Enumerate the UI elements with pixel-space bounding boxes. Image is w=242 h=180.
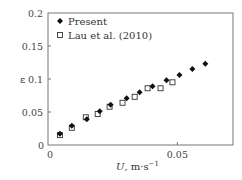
square-marker xyxy=(145,86,150,91)
square-marker xyxy=(170,80,175,85)
diamond-marker xyxy=(189,66,195,72)
square-marker xyxy=(58,33,63,38)
x-axis-label: U, m·s−1 xyxy=(116,160,159,172)
y-tick-label: 0.2 xyxy=(28,8,43,19)
legend-label: Present xyxy=(68,16,107,27)
data-points xyxy=(57,61,208,138)
legend: PresentLau et al. (2010) xyxy=(57,16,152,41)
y-tick-label: 0.15 xyxy=(22,41,43,52)
scatter-chart: 00.050.10.150.2 00.05 PresentLau et al. … xyxy=(0,0,242,180)
diamond-marker xyxy=(176,72,182,78)
y-axis-ticks: 00.050.10.150.2 xyxy=(22,8,51,151)
y-tick-label: 0 xyxy=(38,140,44,151)
square-marker xyxy=(158,86,163,91)
y-tick-label: 0.05 xyxy=(22,107,43,118)
x-tick-label: 0 xyxy=(47,149,53,160)
diamond-marker xyxy=(202,61,208,67)
diamond-marker xyxy=(164,77,170,83)
square-marker xyxy=(132,94,137,99)
y-tick-label: 0.1 xyxy=(28,74,43,85)
legend-label: Lau et al. (2010) xyxy=(68,30,152,41)
y-axis-label: ε xyxy=(20,74,25,85)
x-tick-label: 0.05 xyxy=(167,149,188,160)
square-marker xyxy=(120,100,125,105)
diamond-marker xyxy=(57,18,63,24)
